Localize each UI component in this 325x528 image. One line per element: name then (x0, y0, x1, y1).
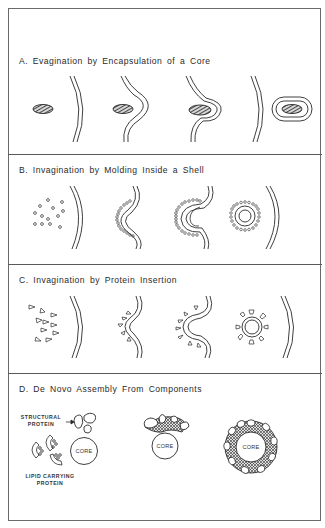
lipid-carrying-label-line1: LIPID CARRYING (25, 473, 74, 479)
panel-c-stage-1-membrane (70, 296, 83, 358)
panel-b-stage-2 (116, 186, 141, 249)
core-label-2: CORE (157, 443, 174, 449)
diagram-artwork: STRUCTURAL PROTEIN LIPID CARRYING PROTEI… (0, 0, 325, 528)
lipid-carrying-label-line2: PROTEIN (37, 480, 64, 486)
panel-b-stage-4 (230, 186, 279, 249)
panel-a-stage-3 (186, 76, 221, 142)
structural-protein-shapes (66, 413, 96, 433)
panel-a-stage-2 (113, 76, 148, 142)
core-label-1: CORE (76, 448, 93, 454)
structural-protein-label-line2: PROTEIN (28, 421, 55, 427)
core-label-3: CORE (243, 444, 260, 450)
panel-c-stage-4 (236, 296, 294, 358)
panel-b-stage-3 (175, 186, 213, 249)
panel-b-stage-1 (34, 186, 83, 249)
core-partial-assembly (144, 415, 189, 460)
panel-c-stage-1 (29, 305, 59, 342)
panel-c-stage-3 (176, 296, 212, 358)
lipid-carrying-protein-shapes (32, 435, 62, 465)
panel-a-stage-4 (251, 76, 312, 142)
structural-protein-label-line1: STRUCTURAL (21, 414, 62, 420)
panel-c-stage-2 (118, 296, 142, 358)
panel-a-stage-1 (33, 76, 83, 142)
